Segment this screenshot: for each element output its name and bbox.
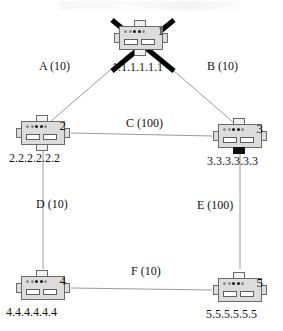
led-icon <box>223 128 226 131</box>
led-icon <box>133 30 136 33</box>
router-icon-4: 4 <box>16 276 70 300</box>
led-icon <box>223 282 226 285</box>
led-icon <box>228 128 231 131</box>
router-icon-5: 5 <box>213 278 267 302</box>
router-icon-3: 3 <box>213 124 267 148</box>
led-icon <box>26 280 29 283</box>
led-icon <box>35 125 38 128</box>
router-led-array-icon <box>223 282 244 285</box>
router-port-bottom-icon <box>36 144 48 151</box>
node-2-number: 2 <box>60 119 67 132</box>
node-4-number: 4 <box>60 274 67 287</box>
led-icon <box>40 125 43 128</box>
led-icon <box>35 280 38 283</box>
link-label-e: E (100) <box>197 199 233 211</box>
router-led-array-icon <box>26 125 47 128</box>
link-line-f <box>71 288 212 290</box>
link-lines <box>43 52 240 290</box>
led-icon <box>142 30 145 33</box>
router-icon-1: 1 <box>114 26 168 50</box>
link-line-c <box>71 133 212 136</box>
router-slot-icon <box>124 39 138 45</box>
link-label-b: B (10) <box>207 60 238 72</box>
router-led-array-icon <box>124 30 145 33</box>
router-icon-2: 2 <box>16 121 70 145</box>
router-port-bottom-icon <box>134 49 146 56</box>
led-icon <box>237 282 240 285</box>
node-5-number: 5 <box>257 276 264 289</box>
node-3-number: 3 <box>257 122 264 135</box>
led-icon <box>237 128 240 131</box>
node-5[interactable]: 5 <box>213 278 267 302</box>
router-slot-icon <box>43 134 57 140</box>
led-icon <box>44 125 47 128</box>
led-icon <box>241 128 244 131</box>
link-label-c: C (100) <box>126 117 163 129</box>
router-slot-icon <box>240 137 254 143</box>
led-icon <box>31 280 34 283</box>
node-1[interactable]: 1 <box>114 26 168 50</box>
node-1-number: 1 <box>158 24 165 37</box>
led-icon <box>26 125 29 128</box>
router-slot-icon <box>240 291 254 297</box>
link-label-f: F (10) <box>131 265 161 277</box>
led-icon <box>40 280 43 283</box>
link-label-a: A (10) <box>39 60 70 72</box>
led-icon <box>31 125 34 128</box>
node-3[interactable]: 3 <box>213 124 267 148</box>
router-slot-icon <box>223 291 237 297</box>
scan-artifact <box>60 1 240 10</box>
node-4-ip-label: 4.4.4.4.4.4 <box>6 306 57 318</box>
led-icon <box>44 280 47 283</box>
led-icon <box>138 30 141 33</box>
led-icon <box>228 282 231 285</box>
router-led-array-icon <box>223 128 244 131</box>
node-1-ip-label: 1.1.1.1.1.1 <box>112 61 163 73</box>
led-icon <box>232 128 235 131</box>
led-icon <box>232 282 235 285</box>
router-led-array-icon <box>26 280 47 283</box>
link-label-d: D (10) <box>36 198 68 210</box>
node-3-ip-label: 3.3.3.3.3.3 <box>207 155 258 167</box>
led-icon <box>241 282 244 285</box>
router-port-bottom-icon <box>233 147 245 154</box>
node-4[interactable]: 4 <box>16 276 70 300</box>
led-icon <box>129 30 132 33</box>
node-2[interactable]: 2 <box>16 121 70 145</box>
node-2-ip-label: 2.2.2.2.2.2 <box>9 152 60 164</box>
router-slot-icon <box>141 39 155 45</box>
router-slot-icon <box>26 289 40 295</box>
led-icon <box>124 30 127 33</box>
router-slot-icon <box>43 289 57 295</box>
router-slot-icon <box>26 134 40 140</box>
node-5-ip-label: 5.5.5.5.5.5 <box>206 308 257 320</box>
router-slot-icon <box>223 137 237 143</box>
